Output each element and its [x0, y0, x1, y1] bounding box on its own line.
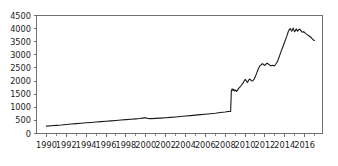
- y-tick-label: 500: [15, 115, 31, 125]
- y-tick-label: 0: [26, 129, 31, 139]
- x-tick-label: 2006: [195, 140, 216, 150]
- x-tick-label: 2016: [294, 140, 315, 150]
- y-tick-label: 1000: [10, 102, 31, 112]
- x-axis-tick-labels: 1990199219941996199820002002200420062008…: [36, 140, 315, 150]
- data-series-line: [46, 28, 314, 126]
- x-tick-label: 1990: [36, 140, 57, 150]
- y-tick-label: 4000: [10, 24, 31, 34]
- y-tick-label: 2500: [10, 63, 31, 73]
- y-tick-label: 4500: [10, 11, 31, 21]
- x-tick-label: 1992: [56, 140, 77, 150]
- x-tick-label: 1998: [115, 140, 136, 150]
- x-tick-label: 2004: [175, 140, 196, 150]
- y-tick-label: 3000: [10, 50, 31, 60]
- x-tick-label: 1994: [76, 140, 97, 150]
- x-tick-label: 2012: [254, 140, 275, 150]
- y-tick-label: 3500: [10, 37, 31, 47]
- x-tick-label: 2000: [135, 140, 156, 150]
- y-tick-label: 1500: [10, 89, 31, 99]
- y-tick-label: 2000: [10, 76, 31, 86]
- plot-frame: [37, 16, 323, 134]
- x-tick-label: 2010: [235, 140, 256, 150]
- x-tick-label: 2008: [215, 140, 236, 150]
- y-axis-tick-labels: 050010001500200025003000350040004500: [10, 11, 31, 139]
- x-tick-label: 2014: [274, 140, 295, 150]
- chart-figure: 050010001500200025003000350040004500 199…: [0, 0, 338, 166]
- x-tick-label: 2002: [155, 140, 176, 150]
- x-tick-label: 1996: [96, 140, 117, 150]
- line-chart: 050010001500200025003000350040004500 199…: [0, 0, 338, 166]
